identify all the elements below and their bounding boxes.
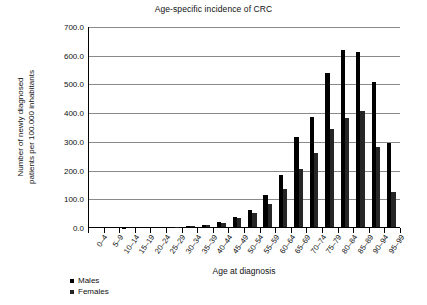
x-axis-tick-label: 95–99 (387, 233, 406, 255)
bar-group (105, 27, 120, 227)
bar-females-50-54 (252, 213, 256, 227)
x-axis-tick-label: 30–34 (184, 233, 203, 255)
x-axis-tick-label: 20–24 (153, 233, 172, 255)
x-axis-title: Age at diagnosis (88, 266, 400, 276)
bar-females-95-99 (391, 192, 395, 227)
legend-swatch-icon (70, 279, 74, 283)
bar-females-90-94 (376, 147, 380, 227)
x-axis-tick-label: 85–89 (355, 233, 374, 255)
bar-females-80-84 (345, 118, 349, 227)
bar-group (353, 27, 368, 227)
bar-group (198, 27, 213, 227)
x-axis-tick-label: 45–49 (231, 233, 250, 255)
x-axis-tick-label: 10–14 (121, 233, 140, 255)
bar-group (384, 27, 399, 227)
bar-females-40-44 (221, 223, 225, 227)
y-axis-title-line2: patients per 100.000 inhabitants (26, 70, 37, 184)
bar-females-60-64 (283, 189, 287, 227)
y-axis-tick-labels: 700.0600.0500.0400.0300.0200.0100.00.0 (38, 27, 84, 228)
x-axis-tick-labels: 0–45–910–1415–1920–2425–2930–3435–3940–4… (88, 233, 400, 267)
bar-group (291, 27, 306, 227)
bar-females-35-39 (206, 225, 210, 227)
y-axis-tick-label: 600.0 (40, 51, 84, 60)
y-axis-title-line1: Number of newly diagnosed (16, 77, 25, 176)
bar-females-30-34 (190, 226, 194, 227)
bar-group (245, 27, 260, 227)
bar-group (183, 27, 198, 227)
y-axis-tick-label: 300.0 (40, 137, 84, 146)
legend-label: Males (78, 275, 99, 286)
x-axis-tick-label: 60–64 (277, 233, 296, 255)
bar-group (275, 27, 290, 227)
bar-females-45-49 (237, 218, 241, 227)
legend-item: Males (70, 275, 109, 286)
bar-group (306, 27, 321, 227)
chart-container: Age-specific incidence of CRC Number of … (0, 0, 427, 305)
legend-item: Females (70, 286, 109, 297)
bar-group (167, 27, 182, 227)
y-axis-tick-label: 100.0 (40, 195, 84, 204)
bar-females-85-89 (360, 111, 364, 227)
bar-group (121, 27, 136, 227)
x-axis-tick-label: 70–74 (309, 233, 328, 255)
bar-series-container (89, 27, 400, 227)
x-axis-tick-label: 55–59 (262, 233, 281, 255)
bar-females-75-79 (330, 129, 334, 227)
bar-group (136, 27, 151, 227)
bar-group (214, 27, 229, 227)
bar-group (229, 27, 244, 227)
bar-group (322, 27, 337, 227)
legend-label: Females (78, 286, 109, 297)
bar-females-55-59 (268, 204, 272, 227)
x-axis-tick-label: 35–39 (199, 233, 218, 255)
y-axis-tick-label: 500.0 (40, 80, 84, 89)
y-axis-tick-label: 400.0 (40, 109, 84, 118)
chart-title: Age-specific incidence of CRC (0, 4, 427, 14)
bar-group (260, 27, 275, 227)
bar-group (337, 27, 352, 227)
bar-group (152, 27, 167, 227)
chart-legend: MalesFemales (70, 275, 109, 297)
bar-group (368, 27, 383, 227)
x-axis-tick-label: 80–84 (340, 233, 359, 255)
bar-females-65-69 (299, 169, 303, 227)
x-axis-tick-mark (400, 228, 401, 233)
x-axis-tick-label: 0–4 (95, 233, 110, 249)
y-axis-tick-label: 200.0 (40, 166, 84, 175)
bar-females-70-74 (314, 153, 318, 227)
legend-swatch-icon (70, 290, 74, 294)
bar-group (90, 27, 105, 227)
y-axis-tick-label: 0.0 (40, 224, 84, 233)
y-axis-title: Number of newly diagnosed patients per 1… (14, 27, 38, 227)
plot-area (88, 27, 400, 228)
y-axis-tick-label: 700.0 (40, 23, 84, 32)
